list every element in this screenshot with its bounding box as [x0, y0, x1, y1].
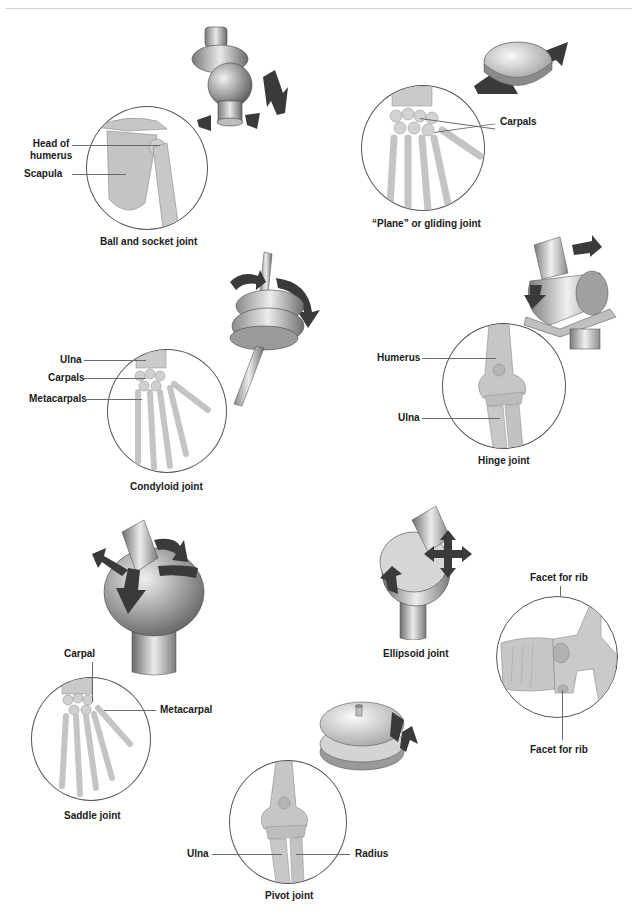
leader-line-scapula	[72, 174, 126, 175]
caption-hinge-joint: Hinge joint	[478, 455, 530, 466]
top-rule	[6, 8, 632, 9]
hinge-anatomy-circle	[442, 323, 566, 449]
label-carpals-condyloid: Carpals	[48, 372, 85, 383]
elbow-hinge-illustration	[443, 324, 565, 448]
ball-socket-model-icon	[185, 25, 295, 145]
label-ulna-condyloid: Ulna	[60, 354, 82, 365]
gliding-disc-model	[470, 28, 570, 98]
label-radius: Radius	[355, 848, 388, 859]
label-ulna-hinge: Ulna	[398, 412, 420, 423]
vertebra-anatomy-circle	[496, 596, 618, 718]
caption-plane-or-gliding-joint: “Plane” or gliding joint	[372, 218, 481, 229]
ball-socket-model	[185, 25, 295, 145]
pivot-model-icon	[312, 690, 422, 780]
saddle-anatomy-circle	[31, 677, 151, 801]
hand-wrist-illustration	[108, 350, 226, 472]
pivot-model	[312, 690, 422, 780]
leader-line-ulna-hinge	[422, 418, 500, 419]
leader-line-head-of-humerus	[72, 145, 160, 146]
elbow-pivot-illustration	[230, 761, 346, 883]
ball-socket-anatomy-circle	[86, 106, 208, 230]
label-carpals: Carpals	[500, 116, 537, 127]
label-head-of-humerus: Head of humerus	[30, 138, 72, 162]
label-facet-for-rib-lower: Facet for rib	[530, 744, 588, 755]
leader-line-humerus	[422, 358, 496, 359]
hand-thumb-illustration	[32, 678, 150, 800]
gliding-disc-model-icon	[470, 28, 570, 98]
leader-line-radius	[296, 854, 350, 855]
caption-pivot-joint: Pivot joint	[265, 890, 313, 901]
label-metacarpals: Metacarpals	[29, 393, 87, 404]
saddle-model	[88, 518, 208, 678]
hand-carpals-illustration	[362, 86, 484, 210]
condyloid-anatomy-circle	[107, 349, 227, 473]
label-scapula: Scapula	[24, 168, 62, 179]
label-humerus: Humerus	[377, 352, 420, 363]
ellipsoid-model	[378, 490, 478, 640]
caption-ball-and-socket-joint: Ball and socket joint	[100, 236, 197, 247]
condyloid-model-icon	[212, 250, 332, 410]
gliding-anatomy-circle	[361, 85, 485, 211]
leader-line-metacarpal	[104, 710, 156, 711]
leader-line-carpal	[92, 662, 93, 702]
label-facet-for-rib-upper: Facet for rib	[530, 572, 588, 583]
leader-line-metacarpals	[84, 399, 142, 400]
leader-line-carpals-condyloid	[84, 378, 146, 379]
leader-line-facet-lower	[562, 690, 563, 740]
leader-line-ulna-pivot	[212, 854, 282, 855]
shoulder-scapula-illustration	[87, 107, 207, 229]
pivot-anatomy-circle	[229, 760, 347, 884]
label-carpal: Carpal	[64, 648, 95, 659]
leader-line-ulna-condyloid	[84, 360, 146, 361]
caption-saddle-joint: Saddle joint	[64, 810, 121, 821]
caption-condyloid-joint: Condyloid joint	[130, 481, 203, 492]
vertebra-illustration	[497, 597, 617, 717]
saddle-model-icon	[88, 518, 208, 678]
label-ulna-pivot: Ulna	[187, 848, 209, 859]
condyloid-model	[212, 250, 332, 410]
caption-ellipsoid-joint: Ellipsoid joint	[383, 648, 449, 659]
ellipsoid-model-icon	[378, 490, 478, 640]
label-metacarpal: Metacarpal	[160, 704, 212, 715]
